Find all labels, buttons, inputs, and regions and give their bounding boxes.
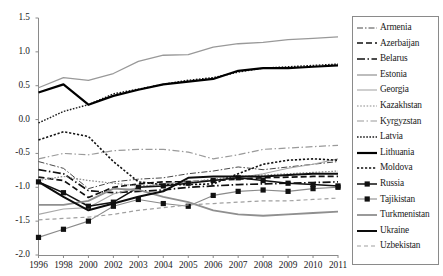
legend-item-label: Estonia [380,67,407,83]
legend-item-kazakhstan[interactable]: Kazakhstan [356,98,436,114]
legend-item-label: Latvia [380,129,403,145]
legend-item-label: Turkmenistan [380,207,430,223]
series-latvia [39,64,339,123]
legend-item-label: Kyrgyzstan [380,114,421,130]
legend-line-swatch [356,162,378,174]
legend-line-swatch [356,193,378,205]
legend-item-georgia[interactable]: Georgia [356,82,436,98]
legend-item-label: Uzbekistan [380,238,420,254]
legend-line-swatch [356,131,378,143]
legend-line-swatch [356,22,378,34]
y-tick-label: 0.0 [4,114,30,124]
data-point-marker [186,181,191,186]
y-tick-label: -2.0 [4,249,30,259]
line-chart: 1.51.00.50.0-0.5-1.0-1.5-2.0 19961998200… [0,0,443,276]
legend-line-swatch [356,100,378,112]
legend-item-lithuania[interactable]: Lithuania [356,145,436,161]
legend-item-label: Belarus [380,51,407,67]
y-tick-label: 1.5 [4,12,30,22]
series-turkmenistan [39,189,339,216]
data-point-marker [211,178,216,183]
data-point-marker [161,201,166,206]
legend-line-swatch [356,147,378,159]
legend-item-armenia[interactable]: Armenia [356,20,436,36]
legend-item-label: Russia [380,176,404,192]
legend-item-turkmenistan[interactable]: Turkmenistan [356,207,436,223]
legend-item-latvia[interactable]: Latvia [356,129,436,145]
legend-item-azerbaijan[interactable]: Azerbaijan [356,36,436,52]
series-lithuania [39,65,339,104]
legend-item-moldova[interactable]: Moldova [356,160,436,176]
y-tick-label: 0.5 [4,80,30,90]
legend-item-label: Moldova [380,160,413,176]
legend-line-swatch [356,69,378,81]
legend-item-tajikistan[interactable]: Tajikistan [356,192,436,208]
legend-item-label: Ukraine [380,223,409,239]
legend-item-label: Azerbaijan [380,36,419,52]
data-point-marker [36,235,41,240]
legend-line-swatch [356,240,378,252]
legend-item-estonia[interactable]: Estonia [356,67,436,83]
data-point-marker [236,189,241,194]
legend-line-swatch [356,84,378,96]
series-kyrgyzstan [39,145,339,159]
data-point-marker [211,193,216,198]
y-tick-label: -1.0 [4,181,30,191]
legend-item-label: Georgia [380,82,409,98]
series-estonia [39,37,339,88]
data-point-marker [261,187,266,192]
data-point-marker [86,204,91,209]
legend-line-swatch [356,225,378,237]
legend-line-swatch [356,178,378,190]
y-tick-label: -0.5 [4,147,30,157]
legend-line-swatch [356,209,378,221]
data-point-marker [61,227,66,232]
legend-item-kyrgyzstan[interactable]: Kyrgyzstan [356,114,436,130]
data-point-marker [285,181,290,186]
legend-item-label: Tajikistan [380,192,415,208]
data-point-marker [161,183,166,188]
legend-item-label: Armenia [380,20,411,36]
legend-item-uzbekistan[interactable]: Uzbekistan [356,238,436,254]
legend-item-label: Lithuania [380,145,414,161]
y-tick-label: -1.5 [4,215,30,225]
chart-legend: ArmeniaAzerbaijanBelarusEstoniaGeorgiaKa… [352,16,439,265]
legend-item-ukraine[interactable]: Ukraine [356,223,436,239]
data-point-marker [285,189,290,194]
y-tick-label: 1.0 [4,46,30,56]
data-point-marker [310,186,315,191]
x-tick-label: 2011 [323,260,353,270]
data-point-marker [86,219,91,224]
data-point-marker [261,178,266,183]
legend-line-swatch [356,115,378,127]
legend-line-swatch [356,53,378,65]
legend-item-russia[interactable]: Russia [356,176,436,192]
legend-item-belarus[interactable]: Belarus [356,51,436,67]
series-layer [36,37,341,240]
legend-line-swatch [356,37,378,49]
legend-item-label: Kazakhstan [380,98,422,114]
data-point-marker [335,185,340,190]
